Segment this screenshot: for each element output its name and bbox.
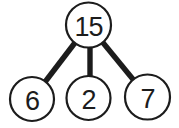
part-node-middle: 2 <box>67 76 111 120</box>
number-bond-diagram: 15 6 2 7 <box>0 0 179 128</box>
whole-value: 15 <box>74 12 102 42</box>
number-bond-canvas: 15 6 2 7 <box>0 0 179 128</box>
part-value-left: 6 <box>25 86 39 116</box>
part-value-right: 7 <box>140 84 154 114</box>
whole-node: 15 <box>66 3 111 48</box>
part-value-middle: 2 <box>81 85 95 115</box>
part-node-left: 6 <box>10 77 54 121</box>
part-node-right: 7 <box>125 75 170 120</box>
